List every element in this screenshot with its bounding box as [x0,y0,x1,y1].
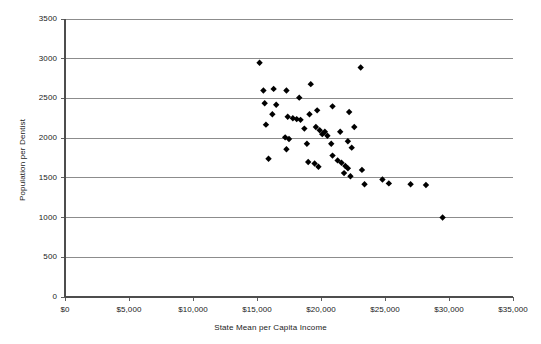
data-point [296,94,302,100]
data-point [263,121,269,127]
x-tick-label: $0 [35,304,95,315]
x-axis-title: State Mean per Capita Income [0,323,541,332]
data-point [341,170,347,176]
x-tick-label: $35,000 [483,304,541,315]
data-point [265,156,271,162]
data-point [347,173,353,179]
data-point [407,181,413,187]
data-point [328,141,334,147]
y-tick-label: 1500 [23,173,57,183]
data-point [329,103,335,109]
y-tick-label: 3500 [23,14,57,24]
y-tick-label: 2500 [23,93,57,103]
data-point [285,113,291,119]
data-point [346,109,352,115]
data-point [423,182,429,188]
y-axis-title: Population per Dentist [16,90,30,230]
y-tick-label: 500 [23,252,57,262]
data-point [345,138,351,144]
x-tick-label: $25,000 [355,304,415,315]
x-tick-label: $10,000 [163,304,223,315]
y-tick-label: 3000 [23,54,57,64]
data-point [260,87,266,93]
data-point [308,81,314,87]
data-point [256,59,262,65]
y-tick-label: 1000 [23,213,57,223]
data-point [359,167,365,173]
plot-area [0,0,541,344]
data-point [337,129,343,135]
data-point [314,107,320,113]
data-point [261,100,267,106]
data-point [361,181,367,187]
data-point [305,159,311,165]
data-point [283,146,289,152]
x-tick-label: $20,000 [291,304,351,315]
y-tick-label: 0 [23,292,57,302]
y-tick-label: 2000 [23,133,57,143]
data-point [270,86,276,92]
data-point [306,111,312,117]
data-point [283,87,289,93]
x-tick-label: $15,000 [227,304,287,315]
data-point [301,125,307,131]
data-point [386,180,392,186]
data-point [351,124,357,130]
data-point [349,144,355,150]
data-point [304,141,310,147]
x-tick-label: $30,000 [419,304,479,315]
data-point [273,102,279,108]
data-point-group [256,59,445,220]
data-point [379,176,385,182]
x-tick-label: $5,000 [99,304,159,315]
data-point [269,111,275,117]
data-point [329,152,335,158]
scatter-chart: Population per Dentist State Mean per Ca… [0,0,541,344]
data-point [357,64,363,70]
data-point [439,214,445,220]
